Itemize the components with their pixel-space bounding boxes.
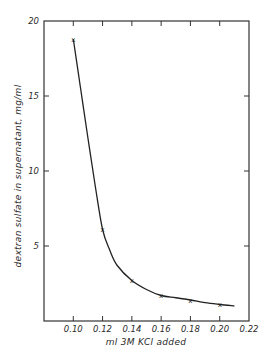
- x-tick-label: 0.14: [122, 324, 141, 334]
- x-axis-label: ml 3M KCl added: [106, 337, 186, 347]
- plot-frame: [44, 21, 249, 321]
- x-tick-label: 0.16: [152, 324, 172, 334]
- x-marker: x: [159, 292, 163, 300]
- x-tick-label: 0.10: [64, 324, 83, 334]
- chart: 0.100.120.140.160.180.200.22 5101520 xxx…: [0, 0, 277, 355]
- x-marker: x: [218, 301, 222, 309]
- y-axis-label: dextran sulfate in supernatant, mg/ml: [13, 84, 23, 267]
- x-marker: x: [71, 36, 75, 44]
- x-tick-label: 0.20: [210, 324, 229, 334]
- axis-ticks: [44, 21, 249, 321]
- x-tick-label: 0.22: [240, 324, 259, 334]
- y-tick-label: 15: [28, 91, 39, 101]
- data-curve: [73, 39, 234, 306]
- x-tick-labels: 0.100.120.140.160.180.200.22: [64, 324, 259, 334]
- y-tick-label: 20: [28, 16, 39, 26]
- y-tick-label: 10: [28, 166, 39, 176]
- x-tick-label: 0.18: [181, 324, 201, 334]
- y-tick-label: 5: [34, 241, 39, 251]
- x-tick-label: 0.12: [93, 324, 112, 334]
- axes-box: [44, 21, 249, 321]
- x-marker: x: [100, 226, 104, 234]
- y-tick-labels: 5101520: [28, 16, 39, 251]
- x-marker: x: [188, 297, 192, 305]
- x-marker: x: [130, 277, 134, 285]
